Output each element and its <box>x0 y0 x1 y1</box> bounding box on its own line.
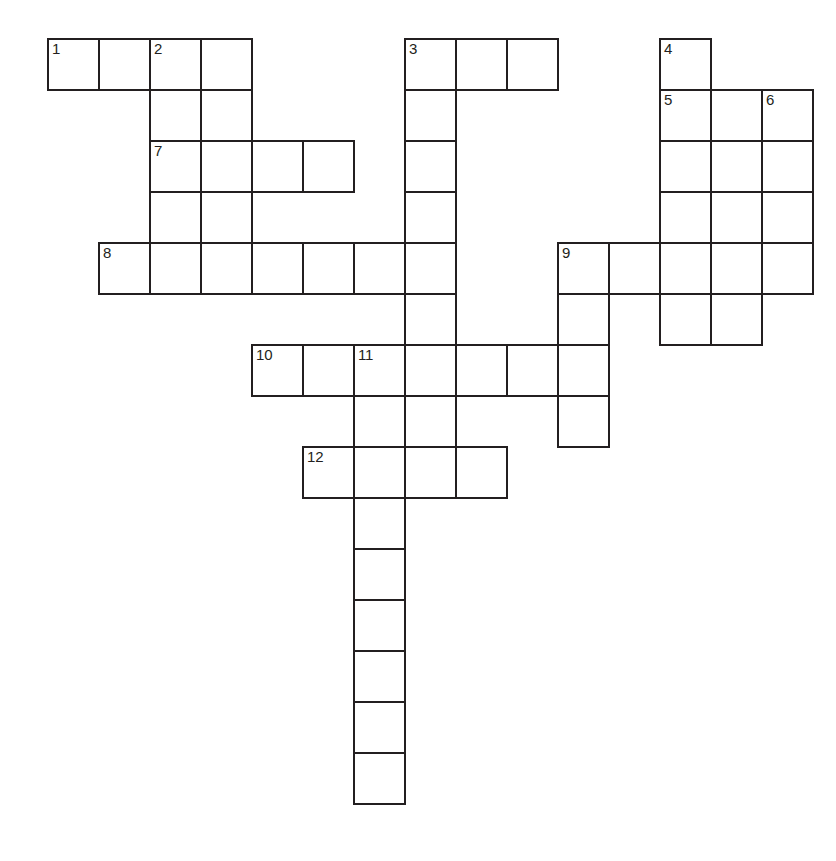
crossword-cell[interactable] <box>353 752 406 805</box>
cell-letter <box>151 193 200 242</box>
crossword-cell[interactable] <box>200 38 253 91</box>
cell-letter <box>151 142 200 191</box>
cell-letter <box>559 346 608 395</box>
crossword-cell[interactable]: 12 <box>302 446 355 499</box>
cell-letter <box>355 550 404 599</box>
crossword-cell[interactable] <box>455 38 508 91</box>
cell-letter <box>406 142 455 191</box>
cell-letter <box>355 754 404 803</box>
crossword-cell[interactable]: 8 <box>98 242 151 295</box>
crossword-cell[interactable] <box>506 38 559 91</box>
cell-letter <box>457 448 506 497</box>
crossword-cell[interactable] <box>404 344 457 397</box>
cell-letter <box>100 244 149 293</box>
crossword-cell[interactable] <box>404 191 457 244</box>
crossword-cell[interactable] <box>404 446 457 499</box>
crossword-cell[interactable] <box>353 446 406 499</box>
cell-letter <box>355 346 404 395</box>
crossword-cell[interactable] <box>455 344 508 397</box>
crossword-cell[interactable]: 10 <box>251 344 304 397</box>
cell-letter <box>355 499 404 548</box>
cell-letter <box>712 295 761 344</box>
crossword-puzzle: 123456789101112 <box>0 0 836 861</box>
crossword-cell[interactable] <box>302 140 355 193</box>
cell-letter <box>406 193 455 242</box>
crossword-cell[interactable]: 4 <box>659 38 712 91</box>
cell-letter <box>202 193 251 242</box>
crossword-cell[interactable]: 3 <box>404 38 457 91</box>
crossword-cell[interactable] <box>251 242 304 295</box>
crossword-cell[interactable] <box>404 293 457 346</box>
crossword-cell[interactable] <box>557 293 610 346</box>
crossword-cell[interactable] <box>659 191 712 244</box>
crossword-cell[interactable] <box>353 701 406 754</box>
cell-letter <box>202 244 251 293</box>
crossword-cell[interactable] <box>149 242 202 295</box>
crossword-cell[interactable] <box>302 344 355 397</box>
crossword-cell[interactable] <box>557 344 610 397</box>
crossword-cell[interactable] <box>710 293 763 346</box>
cell-letter <box>202 40 251 89</box>
crossword-cell[interactable] <box>200 191 253 244</box>
crossword-cell[interactable] <box>353 395 406 448</box>
crossword-cell[interactable] <box>659 293 712 346</box>
cell-letter <box>661 142 710 191</box>
crossword-cell[interactable] <box>251 140 304 193</box>
crossword-cell[interactable] <box>353 242 406 295</box>
cell-letter <box>763 193 812 242</box>
crossword-cell[interactable] <box>98 38 151 91</box>
cell-letter <box>559 397 608 446</box>
crossword-cell[interactable] <box>710 242 763 295</box>
crossword-cell[interactable] <box>761 242 814 295</box>
cell-letter <box>712 193 761 242</box>
crossword-cell[interactable]: 9 <box>557 242 610 295</box>
cell-letter <box>661 40 710 89</box>
crossword-cell[interactable] <box>404 140 457 193</box>
crossword-cell[interactable] <box>200 242 253 295</box>
crossword-cell[interactable] <box>659 140 712 193</box>
crossword-cell[interactable] <box>710 89 763 142</box>
crossword-cell[interactable]: 1 <box>47 38 100 91</box>
cell-letter <box>763 142 812 191</box>
cell-letter <box>151 91 200 140</box>
crossword-cell[interactable] <box>710 140 763 193</box>
crossword-cell[interactable] <box>557 395 610 448</box>
crossword-cell[interactable] <box>761 191 814 244</box>
crossword-cell[interactable] <box>149 191 202 244</box>
cell-letter <box>661 295 710 344</box>
crossword-cell[interactable] <box>353 650 406 703</box>
crossword-cell[interactable] <box>353 548 406 601</box>
cell-letter <box>712 244 761 293</box>
cell-letter <box>610 244 659 293</box>
crossword-cell[interactable]: 2 <box>149 38 202 91</box>
crossword-cell[interactable] <box>404 242 457 295</box>
crossword-cell[interactable] <box>404 395 457 448</box>
crossword-cell[interactable] <box>353 497 406 550</box>
crossword-cell[interactable] <box>455 446 508 499</box>
cell-letter <box>49 40 98 89</box>
crossword-cell[interactable] <box>404 89 457 142</box>
crossword-cell[interactable]: 7 <box>149 140 202 193</box>
crossword-cell[interactable]: 6 <box>761 89 814 142</box>
cell-letter <box>406 346 455 395</box>
crossword-cell[interactable] <box>353 599 406 652</box>
crossword-cell[interactable] <box>200 140 253 193</box>
crossword-cell[interactable] <box>608 242 661 295</box>
crossword-cell[interactable]: 11 <box>353 344 406 397</box>
cell-letter <box>355 601 404 650</box>
crossword-cell[interactable] <box>710 191 763 244</box>
cell-letter <box>406 91 455 140</box>
crossword-cell[interactable]: 5 <box>659 89 712 142</box>
crossword-cell[interactable] <box>302 242 355 295</box>
cell-letter <box>712 142 761 191</box>
cell-letter <box>559 295 608 344</box>
crossword-cell[interactable] <box>761 140 814 193</box>
crossword-cell[interactable] <box>200 89 253 142</box>
crossword-grid[interactable]: 123456789101112 <box>0 0 836 861</box>
crossword-cell[interactable] <box>149 89 202 142</box>
crossword-cell[interactable] <box>659 242 712 295</box>
cell-letter <box>406 448 455 497</box>
crossword-cell[interactable] <box>506 344 559 397</box>
cell-letter <box>355 397 404 446</box>
cell-letter <box>355 448 404 497</box>
